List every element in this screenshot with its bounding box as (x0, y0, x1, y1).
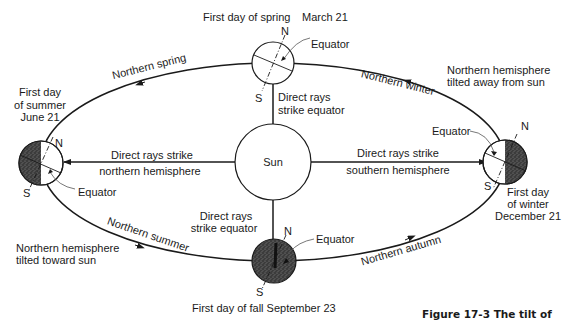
winter-tilt-line2: tilted away from sun (447, 76, 545, 88)
spring-equator-label: Equator (311, 38, 350, 50)
earth-orbit-seasons-diagram: Sun First day of spring March 21 N S Equ… (0, 0, 566, 321)
spring-title: First day of spring (203, 11, 290, 23)
winter-title-line1: First day (507, 186, 550, 198)
fall-title: First day of fall September 23 (192, 302, 336, 314)
winter-rays-line2: southern hemisphere (346, 164, 449, 176)
winter-south-label: S (484, 180, 491, 192)
winter-equator-label: Equator (432, 125, 471, 137)
summer-tilt-line1: Northern hemisphere (16, 242, 119, 254)
spring-south-label: S (255, 92, 262, 104)
summer-title-line3: June 21 (20, 111, 59, 123)
summer-north-label: N (55, 137, 63, 149)
figure-caption: Figure 17-3 The tilt of (422, 308, 552, 320)
season-label-spring: Northern spring (111, 51, 187, 81)
fall-rays-line1: Direct rays (200, 210, 253, 222)
fall-rays-line2: strike equator (191, 222, 258, 234)
earth-fall (252, 235, 314, 289)
fall-north-label: N (284, 225, 292, 237)
summer-rays-line2: northern hemisphere (99, 165, 201, 177)
summer-equator-label: Equator (78, 186, 117, 198)
spring-date: March 21 (302, 11, 348, 23)
winter-title-line2: of winter (507, 198, 549, 210)
spring-north-label: N (281, 25, 289, 37)
season-label-winter: Northern winter (360, 67, 436, 97)
winter-tilt-line1: Northern hemisphere (447, 64, 550, 76)
winter-title-line3: December 21 (495, 210, 561, 222)
fall-equator-label: Equator (316, 233, 355, 245)
summer-title-line1: First day (19, 86, 62, 98)
winter-north-label: N (521, 120, 529, 132)
season-label-autumn: Northern autumn (360, 233, 443, 267)
spring-rays-line2: strike equator (278, 104, 345, 116)
winter-rays-line1: Direct rays strike (357, 147, 439, 159)
summer-rays-line1: Direct rays strike (111, 149, 193, 161)
fall-south-label: S (256, 286, 263, 298)
sun-label: Sun (263, 156, 283, 168)
spring-rays-line1: Direct rays (278, 91, 331, 103)
earth-summer (19, 137, 75, 190)
sun: Sun (235, 124, 311, 200)
summer-south-label: S (23, 187, 30, 199)
summer-tilt-line2: tilted toward sun (16, 254, 96, 266)
summer-title-line2: of summer (14, 99, 66, 111)
